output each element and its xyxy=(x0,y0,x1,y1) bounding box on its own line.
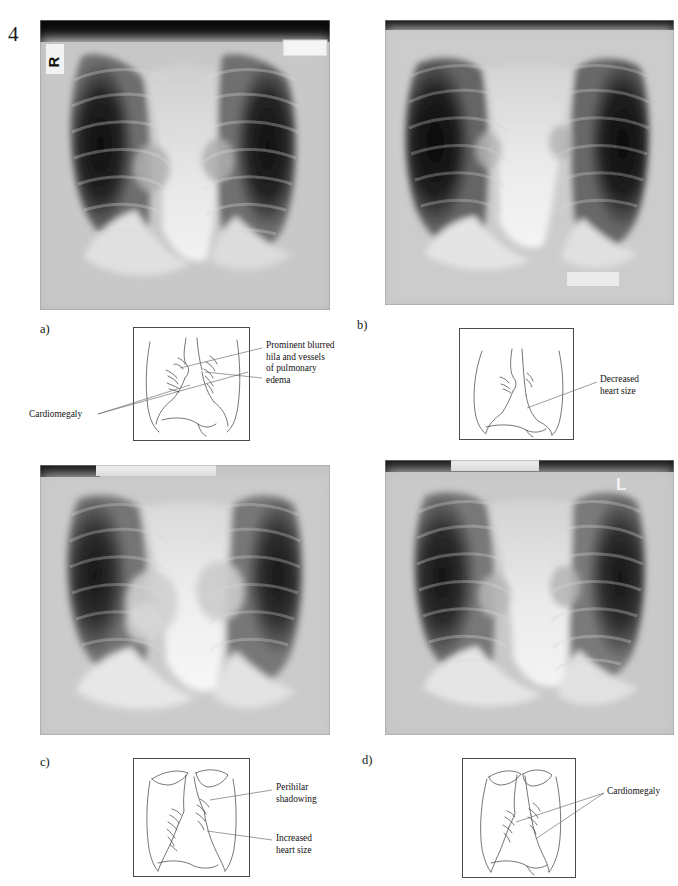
line-drawing-b xyxy=(459,328,574,440)
page-number: 4 xyxy=(8,22,19,47)
panel-label-d: d) xyxy=(362,753,372,768)
panel-label-c: c) xyxy=(40,755,50,770)
annotation-a-edema: Prominent blurred hila and vessels of pu… xyxy=(266,340,362,386)
panel-label-a: a) xyxy=(40,322,50,337)
annotation-b-heart: Decreased heart size xyxy=(600,374,676,397)
chest-xray-c xyxy=(40,465,330,735)
chest-xray-a: R xyxy=(40,20,330,310)
panel-label-b: b) xyxy=(357,318,367,333)
xray-side-marker-d: L xyxy=(616,475,626,494)
annotation-a-cardiomegaly: Cardiomegaly xyxy=(29,409,121,421)
line-drawing-c xyxy=(133,758,250,877)
annotation-d-cardiomegaly: Cardiomegaly xyxy=(607,786,677,798)
chest-xray-b xyxy=(385,20,674,305)
annotation-c-perihilar: Perihilar shadowing xyxy=(276,782,358,805)
xray-side-marker-a: R xyxy=(45,56,62,67)
chest-xray-d: L xyxy=(385,460,674,735)
annotation-c-heart: Increased heart size xyxy=(276,833,358,856)
line-drawing-a xyxy=(133,327,250,441)
line-drawing-d xyxy=(462,758,576,878)
